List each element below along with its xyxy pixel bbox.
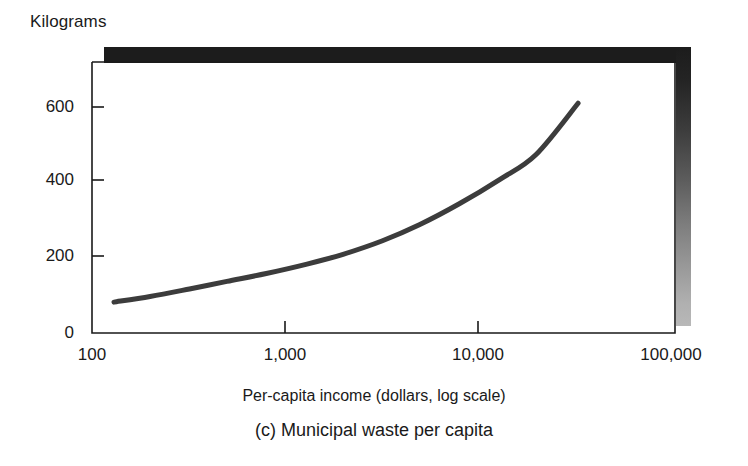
x-tick-label-10000: 10,000	[452, 345, 504, 365]
x-axis-title: Per-capita income (dollars, log scale)	[0, 387, 748, 405]
figure-caption: (c) Municipal waste per capita	[0, 420, 748, 441]
x-tick-label-100000: 100,000	[640, 345, 701, 365]
data-series-line-municipal-waste	[114, 103, 578, 302]
x-axis-tick-marks	[285, 321, 478, 333]
y-tick-label-0: 0	[28, 323, 74, 343]
x-tick-label-1000: 1,000	[264, 345, 307, 365]
y-axis-tick-marks	[92, 107, 104, 256]
figure-municipal-waste-per-capita: Kilograms 600 400 200 0 100 1,000 10,000…	[0, 0, 748, 466]
y-tick-label-400: 400	[28, 170, 74, 190]
y-tick-label-600: 600	[28, 97, 74, 117]
x-tick-label-100: 100	[78, 345, 106, 365]
y-tick-label-200: 200	[28, 246, 74, 266]
